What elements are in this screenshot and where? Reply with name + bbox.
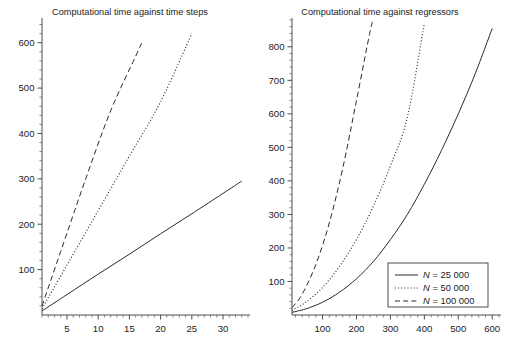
legend-label: N = 25 000 [423,269,469,280]
y-tick-label: 400 [268,175,284,186]
series-line [42,181,242,311]
figure-canvas: Computational time against time steps100… [0,0,505,353]
legend-label: N = 50 000 [423,282,469,293]
x-tick-label: 100 [315,323,331,334]
x-axis-ticks: 100200300400500600 [295,315,500,334]
x-tick-label: 200 [348,323,364,334]
series-group [42,34,242,311]
chart-svg-right: Computational time against regressors100… [252,0,505,353]
series-line [42,43,142,306]
y-tick-label: 200 [268,242,284,253]
chart-panel-right: Computational time against regressors100… [252,0,505,353]
series-line [292,20,373,308]
series-line [42,34,192,309]
y-tick-label: 600 [18,37,34,48]
x-tick-label: 10 [93,323,104,334]
y-tick-label: 100 [18,264,34,275]
y-axis-ticks: 100200300400500600700800 [268,20,292,308]
y-tick-label: 100 [268,276,284,287]
x-tick-label: 15 [124,323,135,334]
x-axis-ticks: 51015202530 [42,315,248,334]
x-tick-label: 25 [186,323,197,334]
chart-panel-left: Computational time against time steps100… [0,0,252,353]
x-tick-label: 400 [416,323,432,334]
y-tick-label: 300 [18,173,34,184]
chart-svg-left: Computational time against time steps100… [0,0,252,353]
y-tick-label: 500 [18,82,34,93]
y-tick-label: 300 [268,209,284,220]
y-tick-label: 500 [268,142,284,153]
y-tick-label: 800 [268,41,284,52]
x-tick-label: 30 [218,323,229,334]
chart-title: Computational time against time steps [52,7,208,17]
legend-label: N = 100 000 [423,295,474,306]
y-tick-label: 600 [268,108,284,119]
y-tick-label: 400 [18,128,34,139]
y-axis-ticks: 100200300400500600 [18,25,42,306]
x-tick-label: 500 [450,323,466,334]
x-tick-label: 300 [382,323,398,334]
chart-title: Computational time against regressors [301,7,459,17]
x-tick-label: 600 [484,323,500,334]
y-tick-label: 700 [268,75,284,86]
x-tick-label: 5 [64,323,69,334]
axis-spines [42,18,250,315]
y-tick-label: 200 [18,219,34,230]
chart-legend: N = 25 000N = 50 000N = 100 000 [388,263,488,307]
x-tick-label: 20 [155,323,166,334]
